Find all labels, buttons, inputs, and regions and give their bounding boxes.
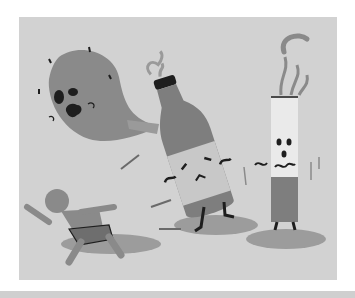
bottle-shadow [174,215,258,235]
balloon-eye-right [68,88,78,96]
bottom-bar [0,291,355,298]
balloon-organ [39,47,159,141]
child-head [45,189,69,213]
cigarette-shadow [246,229,326,249]
cigarette-filter [271,177,298,222]
illustration-canvas [19,17,337,280]
cigarette [244,36,319,230]
illustration-frame: Cartoon of a frightened running child ch… [19,17,337,280]
balloon-eye-left [54,90,64,104]
